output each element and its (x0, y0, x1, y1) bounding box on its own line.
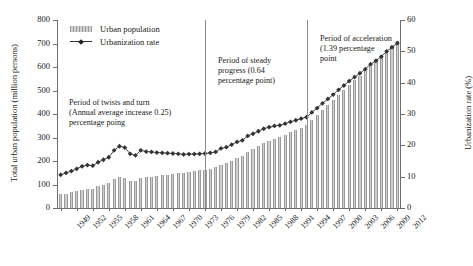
y-axis-left-tick (53, 138, 57, 139)
data-point-marker (154, 150, 159, 155)
data-point-marker (293, 118, 298, 123)
annotation-line: progress (0.64 (218, 66, 304, 76)
data-point-marker (144, 149, 149, 154)
data-point-marker (197, 151, 202, 156)
y-axis-left-tick (53, 161, 57, 162)
x-axis-tick (317, 208, 318, 211)
x-axis-tick-label: 2012 (411, 213, 429, 231)
bar-swatch-icon (70, 26, 92, 32)
x-axis-tick (109, 208, 110, 211)
divider-1 (205, 20, 206, 208)
x-axis-tick (269, 208, 270, 211)
data-point-marker (235, 139, 240, 144)
x-axis-tick-label: 1949 (74, 213, 92, 231)
data-point-marker (299, 116, 304, 121)
x-axis-tick (61, 208, 62, 211)
data-point-marker (277, 123, 282, 128)
x-axis-tick-label: 1958 (122, 213, 140, 231)
y-axis-right-tick (401, 177, 405, 178)
x-axis-tick-label: 1997 (331, 213, 349, 231)
x-axis-tick (221, 208, 222, 211)
y-axis-left-tick-label: 800 (16, 14, 50, 24)
x-axis-tick (365, 208, 366, 211)
data-point-marker (261, 126, 266, 131)
y-axis-right-tick-label: 0 (407, 202, 441, 212)
y-axis-right-tick-label: 30 (407, 108, 441, 118)
x-axis-tick (381, 208, 382, 211)
data-point-marker (267, 125, 272, 130)
x-axis-tick (253, 208, 254, 211)
y-axis-left-tick (53, 20, 57, 21)
x-axis-tick-label: 1985 (267, 213, 285, 231)
x-axis-tick-label: 2003 (363, 213, 381, 231)
x-axis-tick-label: 2006 (379, 213, 397, 231)
data-point-marker (283, 121, 288, 126)
y-axis-right-title: Urbanization rate (%) (463, 13, 473, 213)
data-point-marker (208, 150, 213, 155)
x-axis-tick (173, 208, 174, 211)
y-axis-left-tick (53, 44, 57, 45)
data-point-marker (176, 151, 181, 156)
line-marker-icon (70, 38, 92, 45)
x-axis-tick (333, 208, 334, 211)
legend-item-urbanization-rate: Urbanization rate (70, 35, 160, 48)
x-axis-tick-label: 1964 (155, 213, 173, 231)
legend-label-urban-population: Urban population (100, 24, 160, 34)
x-axis-tick-label: 1961 (138, 213, 156, 231)
y-axis-left-tick-label: 400 (16, 108, 50, 118)
x-axis-tick (285, 208, 286, 211)
data-point-marker (74, 166, 79, 171)
y-axis-left-tick-label: 600 (16, 61, 50, 71)
y-axis-right-tick (401, 20, 405, 21)
data-point-marker (64, 171, 69, 176)
annotation-line: Period of steady (218, 56, 304, 66)
y-axis-right-tick-label: 10 (407, 171, 441, 181)
data-point-marker (219, 146, 224, 151)
data-point-marker (213, 150, 218, 155)
y-axis-right-tick-label: 20 (407, 139, 441, 149)
y-axis-left-tick (53, 208, 57, 209)
y-axis-left-tick-label: 500 (16, 85, 50, 95)
data-point-marker (165, 151, 170, 156)
annotation-line: (1.39 percentage (320, 44, 420, 54)
annotation-line: point (320, 54, 420, 64)
data-point-marker (251, 131, 256, 136)
x-axis-tick-label: 1994 (315, 213, 333, 231)
x-axis-tick-label: 2000 (347, 213, 365, 231)
y-axis-right-tick (401, 83, 405, 84)
data-point-marker (272, 124, 277, 129)
chart-legend: Urban population Urbanization rate (70, 22, 160, 48)
y-axis-right-tick-label: 60 (407, 14, 441, 24)
x-axis-tick (93, 208, 94, 211)
annotation-line: Period of twists and turn (69, 98, 197, 108)
data-point-marker (187, 152, 192, 157)
data-point-marker (192, 152, 197, 157)
divider-2 (307, 20, 308, 208)
x-axis-tick (125, 208, 126, 211)
data-point-marker (80, 164, 85, 169)
data-point-marker (85, 163, 90, 168)
legend-label-urbanization-rate: Urbanization rate (100, 37, 159, 47)
x-axis-tick-label: 1955 (106, 213, 124, 231)
y-axis-right-tick (401, 145, 405, 146)
data-point-marker (288, 119, 293, 124)
y-axis-left-tick-label: 300 (16, 132, 50, 142)
annotation-period-2: Period of steadyprogress (0.64percentage… (218, 56, 304, 86)
data-point-marker (96, 160, 101, 165)
x-axis-tick (141, 208, 142, 211)
x-axis-tick-label: 1967 (171, 213, 189, 231)
data-point-marker (224, 145, 229, 150)
y-axis-left-tick (53, 67, 57, 68)
x-axis-tick-label: 1976 (219, 213, 237, 231)
y-axis-right-tick (401, 208, 405, 209)
legend-item-urban-population: Urban population (70, 22, 160, 35)
data-point-marker (90, 163, 95, 168)
y-axis-left-tick-label: 100 (16, 179, 50, 189)
x-axis-tick (397, 208, 398, 211)
x-axis-tick (301, 208, 302, 211)
x-axis-tick (237, 208, 238, 211)
x-axis-tick (157, 208, 158, 211)
data-point-marker (160, 150, 165, 155)
x-axis-tick (205, 208, 206, 211)
